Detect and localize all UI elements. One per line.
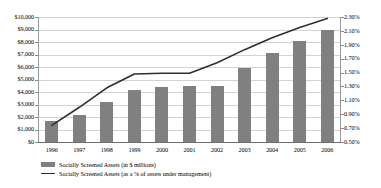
right-axis-tick	[341, 142, 344, 143]
gridline	[38, 30, 341, 31]
x-axis-tick-label: 1996	[37, 146, 67, 153]
left-axis-tick-label: $7,000	[0, 51, 34, 57]
legend-item-line: Socially Screened Assets (as a % of asse…	[41, 169, 211, 178]
right-axis-tick-label: 1.50%	[344, 69, 378, 75]
left-axis-line	[38, 17, 39, 142]
x-axis-tick-label: 2003	[230, 146, 260, 153]
legend-bar-swatch-icon	[41, 162, 55, 167]
right-axis-tick	[341, 100, 344, 101]
right-axis-tick-label: 2.30%	[344, 14, 378, 20]
bar	[266, 53, 279, 142]
bar	[293, 41, 306, 142]
right-axis-line	[340, 17, 341, 142]
x-axis-tick-label: 2005	[285, 146, 315, 153]
left-axis-tick	[35, 42, 38, 43]
right-axis-tick-label: 1.10%	[344, 97, 378, 103]
right-axis-tick	[341, 114, 344, 115]
left-axis-tick	[35, 130, 38, 131]
right-axis-tick	[341, 73, 344, 74]
left-axis-tick	[35, 55, 38, 56]
x-axis-tick-label: 2006	[312, 146, 342, 153]
left-axis-tick	[35, 117, 38, 118]
legend-label-line: Socially Screened Assets (as a % of asse…	[59, 169, 211, 178]
chart-legend: Socially Screened Assets (in $ millions)…	[41, 160, 211, 178]
right-axis-tick-label: 2.10%	[344, 28, 378, 34]
right-axis-tick-label: 1.70%	[344, 55, 378, 61]
bar	[100, 102, 113, 142]
left-axis-tick	[35, 67, 38, 68]
left-axis-tick-label: $4,000	[0, 89, 34, 95]
left-axis-tick	[35, 80, 38, 81]
left-axis-tick	[35, 105, 38, 106]
x-axis-tick-label: 2000	[147, 146, 177, 153]
right-axis-tick	[341, 128, 344, 129]
legend-line-swatch-icon	[41, 173, 55, 174]
left-axis-tick-label: $10,000	[0, 14, 34, 20]
left-axis-tick	[35, 92, 38, 93]
left-axis-tick-label: $6,000	[0, 64, 34, 70]
left-axis-tick-label: $2,000	[0, 114, 34, 120]
bar	[183, 86, 196, 142]
legend-label-bar: Socially Screened Assets (in $ millions)	[59, 160, 156, 169]
right-axis-tick	[341, 31, 344, 32]
left-axis-tick	[35, 142, 38, 143]
x-axis-tick-label: 1998	[92, 146, 122, 153]
right-axis-tick	[341, 45, 344, 46]
legend-item-bar: Socially Screened Assets (in $ millions)	[41, 160, 211, 169]
x-axis-tick-label: 2001	[175, 146, 205, 153]
left-axis-tick-label: $3,000	[0, 101, 34, 107]
x-axis-line	[38, 142, 341, 143]
right-axis-tick	[341, 86, 344, 87]
bar	[211, 86, 224, 142]
left-axis-tick-label: $8,000	[0, 39, 34, 45]
bar	[321, 30, 334, 143]
bar	[128, 90, 141, 143]
bar	[73, 115, 86, 143]
bar	[155, 87, 168, 142]
bar	[45, 121, 58, 142]
x-axis-tick-label: 1997	[64, 146, 94, 153]
x-axis-tick-label: 2002	[202, 146, 232, 153]
bar	[238, 68, 251, 142]
left-axis-tick-label: $9,000	[0, 26, 34, 32]
left-axis-tick	[35, 17, 38, 18]
x-axis-tick-label: 2004	[257, 146, 287, 153]
right-axis-tick-label: 0.70%	[344, 125, 378, 131]
gridline	[38, 17, 341, 18]
right-axis-tick-label: 1.90%	[344, 42, 378, 48]
left-axis-tick-label: $5,000	[0, 76, 34, 82]
chart-container: $0$1,000$2,000$3,000$4,000$5,000$6,000$7…	[0, 0, 381, 188]
right-axis-tick-label: 1.30%	[344, 83, 378, 89]
x-axis-tick-label: 1999	[119, 146, 149, 153]
right-axis-tick-label: 0.90%	[344, 111, 378, 117]
left-axis-tick-label: $1,000	[0, 126, 34, 132]
right-axis-tick	[341, 59, 344, 60]
left-axis-tick	[35, 30, 38, 31]
left-axis-tick-label: $0	[0, 139, 34, 145]
right-axis-tick	[341, 17, 344, 18]
right-axis-tick-label: 0.50%	[344, 139, 378, 145]
